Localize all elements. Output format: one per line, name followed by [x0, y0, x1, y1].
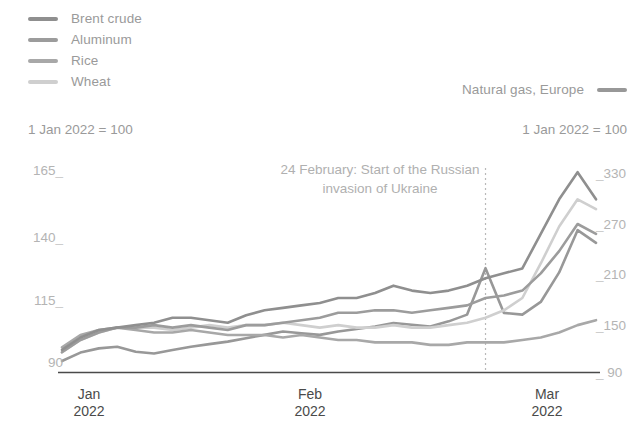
right-tick-330: _330 [596, 166, 626, 181]
left-tick-90: 90 [48, 355, 63, 370]
x-label-jan: Jan 2022 [44, 386, 134, 420]
x-label-feb-year: 2022 [265, 403, 355, 420]
left-tick-165: 165_ [33, 163, 63, 178]
right-tick-150: _150 [596, 318, 626, 333]
x-label-jan-month: Jan [78, 386, 101, 402]
right-tick-90: _ 90 [596, 365, 622, 380]
right-tick-270: _270 [596, 217, 626, 232]
left-tick-140: 140_ [33, 230, 63, 245]
right-tick-210: _210 [596, 267, 626, 282]
left-tick-115: 115_ [34, 293, 63, 308]
x-label-mar: Mar 2022 [502, 386, 592, 420]
x-label-feb-month: Feb [298, 386, 322, 402]
chart-figure: Brent crude Aluminum Rice Wheat Natural … [0, 0, 641, 437]
x-label-mar-year: 2022 [502, 403, 592, 420]
x-label-jan-year: 2022 [44, 403, 134, 420]
x-label-feb: Feb 2022 [265, 386, 355, 420]
plot-area [0, 0, 641, 437]
x-label-mar-month: Mar [535, 386, 559, 402]
